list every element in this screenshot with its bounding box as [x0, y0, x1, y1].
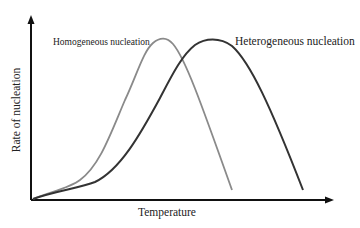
x-axis-arrow-icon: [325, 197, 334, 204]
heterogeneous-curve: [33, 40, 303, 200]
x-axis-label: Temperature: [138, 206, 196, 219]
y-axis-arrow-icon: [28, 15, 35, 24]
homogeneous-label: Homogeneous nucleation: [53, 37, 150, 47]
y-axis-label: Rate of nucleation: [10, 68, 22, 153]
heterogeneous-label: Heterogeneous nucleation: [235, 35, 355, 48]
homogeneous-curve: [33, 39, 232, 199]
nucleation-chart: Homogeneous nucleation Heterogeneous nuc…: [0, 0, 360, 228]
